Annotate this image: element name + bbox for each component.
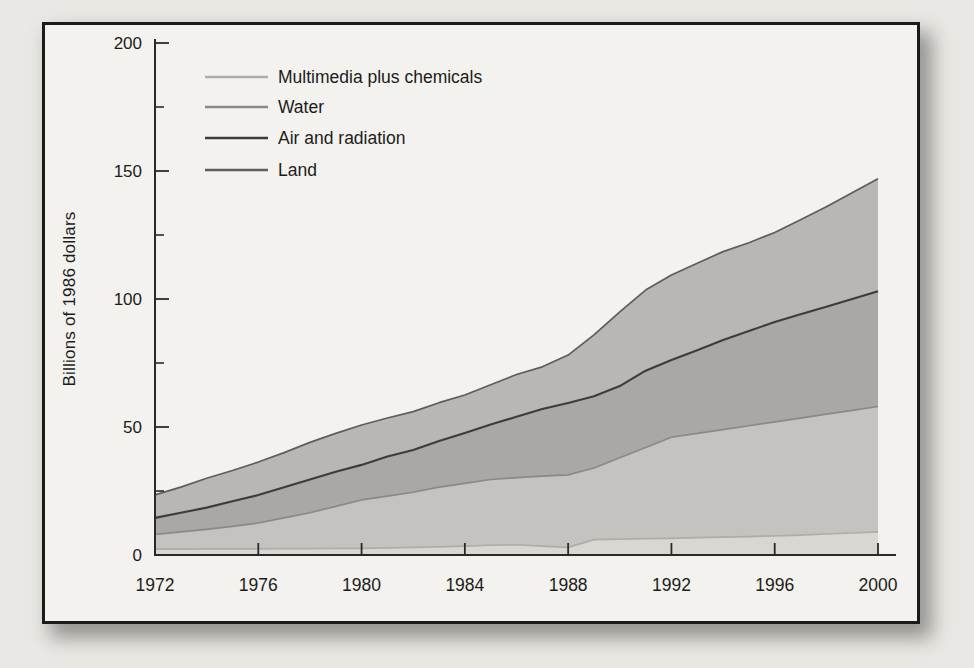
legend-label-2: Air and radiation [278,128,405,148]
figure-frame: 0501001502001972197619801984198819921996… [42,22,920,624]
y-axis-title: Billions of 1986 dollars [60,212,79,387]
legend-label-3: Land [278,160,317,180]
y-tick-label: 200 [114,34,142,53]
x-tick-label: 1976 [239,575,278,595]
y-tick-label: 0 [133,546,142,565]
x-tick-label: 1992 [652,575,691,595]
stacked-area-chart: 0501001502001972197619801984198819921996… [45,25,917,621]
x-tick-label: 2000 [859,575,898,595]
x-tick-label: 1996 [755,575,794,595]
legend-label-1: Water [278,97,324,117]
x-tick-label: 1980 [342,575,381,595]
y-tick-label: 100 [114,290,142,309]
x-tick-label: 1984 [445,575,484,595]
legend-label-0: Multimedia plus chemicals [278,67,482,87]
x-tick-label: 1988 [549,575,588,595]
y-tick-label: 50 [123,418,142,437]
y-tick-label: 150 [114,162,142,181]
x-tick-label: 1972 [136,575,175,595]
